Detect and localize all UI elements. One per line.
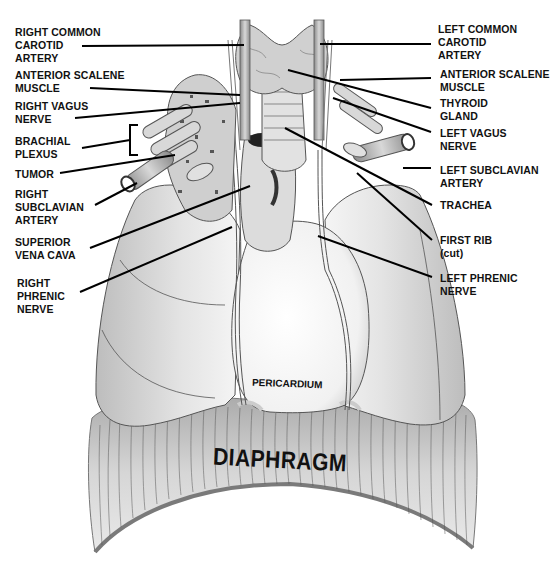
label-right-vagus-nerve: RIGHT VAGUS NERVE bbox=[15, 100, 88, 126]
brachial-plexus-bracket bbox=[82, 125, 138, 155]
label-superior-vena-cava: SUPERIOR VENA CAVA bbox=[15, 236, 76, 262]
label-first-rib: FIRST RIB (cut) bbox=[440, 234, 492, 260]
label-left-anterior-scalene-muscle: ANTERIOR SCALENE MUSCLE bbox=[440, 68, 550, 94]
label-left-common-carotid-artery: LEFT COMMON CAROTID ARTERY bbox=[438, 23, 517, 62]
label-trachea: TRACHEA bbox=[440, 199, 492, 212]
label-left-phrenic-nerve: LEFT PHRENIC NERVE bbox=[440, 272, 518, 298]
label-right-subclavian-artery: RIGHT SUBCLAVIAN ARTERY bbox=[15, 188, 84, 227]
label-right-anterior-scalene-muscle: ANTERIOR SCALENE MUSCLE bbox=[15, 69, 125, 95]
label-brachial-plexus: BRACHIAL PLEXUS bbox=[15, 135, 71, 161]
label-right-phrenic-nerve: RIGHT PHRENIC NERVE bbox=[17, 277, 65, 316]
right-lung bbox=[96, 185, 240, 426]
label-tumor: TUMOR bbox=[15, 168, 54, 181]
brachial-plexus-left bbox=[332, 82, 385, 136]
label-left-subclavian-artery: LEFT SUBCLAVIAN ARTERY bbox=[440, 164, 539, 190]
label-right-common-carotid-artery: RIGHT COMMON CAROTID ARTERY bbox=[15, 26, 101, 65]
label-left-vagus-nerve: LEFT VAGUS NERVE bbox=[440, 127, 507, 153]
label-thyroid-gland: THYROID GLAND bbox=[440, 97, 488, 123]
